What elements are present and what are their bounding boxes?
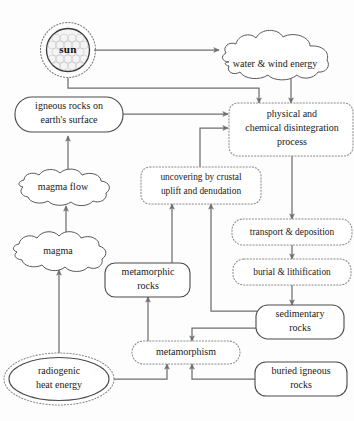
node-label-sedimentary-rocks-line2: rocks: [289, 322, 311, 333]
node-magma-flow[interactable]: magma flow: [19, 169, 109, 206]
node-label-magma: magma: [43, 245, 73, 256]
cloud-shape-water-wind: [222, 30, 328, 80]
node-label-magma-flow: magma flow: [38, 181, 89, 192]
edge-radiogenic-to-metamorphism: [110, 364, 167, 379]
node-label-transport-deposition: transport & deposition: [250, 227, 335, 237]
node-label-igneous-rocks-surface-line2: earth's surface: [40, 114, 98, 125]
node-label-disintegration-line3: process: [277, 136, 307, 147]
node-physical-chemical-disintegration[interactable]: physical and chemical disintegration pro…: [229, 103, 353, 156]
node-label-sedimentary-rocks-line1: sedimentary: [276, 308, 325, 319]
node-metamorphism[interactable]: metamorphism: [132, 341, 240, 364]
node-label-water-wind-energy: water & wind energy: [233, 58, 318, 69]
node-label-igneous-rocks-surface-line1: igneous rocks on: [35, 100, 103, 111]
node-sedimentary-rocks[interactable]: sedimentary rocks: [256, 305, 344, 339]
node-buried-igneous-rocks[interactable]: buried igneous rocks: [255, 362, 347, 396]
node-label-radiogenic-line2: heat energy: [36, 379, 82, 390]
node-label-disintegration-line1: physical and: [267, 108, 317, 119]
node-label-metamorphism: metamorphism: [156, 346, 216, 357]
node-label-burial-lithification: burial & lithification: [253, 267, 331, 277]
node-label-metamorphic-rocks-line1: metamorphic: [122, 266, 175, 277]
edge-uncovering-to-disintegration: [200, 128, 228, 167]
node-igneous-rocks-surface[interactable]: igneous rocks on earth's surface: [15, 97, 123, 132]
node-label-metamorphic-rocks-line2: rocks: [137, 280, 159, 291]
node-burial-lithification[interactable]: burial & lithification: [233, 259, 351, 285]
node-label-uncovering-line1: uncovering by crustal: [160, 172, 242, 182]
node-water-wind-energy[interactable]: water & wind energy: [222, 30, 328, 80]
node-radiogenic-heat-energy[interactable]: radiogenic heat energy: [4, 353, 114, 405]
node-label-uncovering-line2: uplift and denudation: [161, 186, 242, 196]
diagram-canvas: sun water & wind energy igneous rocks on…: [0, 0, 354, 421]
node-label-radiogenic-line1: radiogenic: [38, 365, 81, 376]
node-magma[interactable]: magma: [13, 232, 105, 272]
edge-buried-igneous-to-metamorphism: [192, 364, 256, 379]
node-metamorphic-rocks[interactable]: metamorphic rocks: [105, 263, 190, 297]
rock-cycle-diagram: sun water & wind energy igneous rocks on…: [0, 0, 354, 421]
edge-sedimentary-to-metamorphism: [192, 328, 257, 341]
node-transport-deposition[interactable]: transport & deposition: [232, 219, 352, 245]
node-label-buried-igneous-line1: buried igneous: [271, 365, 330, 376]
node-label-disintegration-line2: chemical disintegration: [245, 122, 339, 133]
node-uncovering-crustal-uplift[interactable]: uncovering by crustal uplift and denudat…: [141, 167, 261, 204]
node-label-sun: sun: [59, 43, 77, 55]
node-label-buried-igneous-line2: rocks: [290, 379, 312, 390]
node-sun[interactable]: sun: [41, 23, 96, 78]
